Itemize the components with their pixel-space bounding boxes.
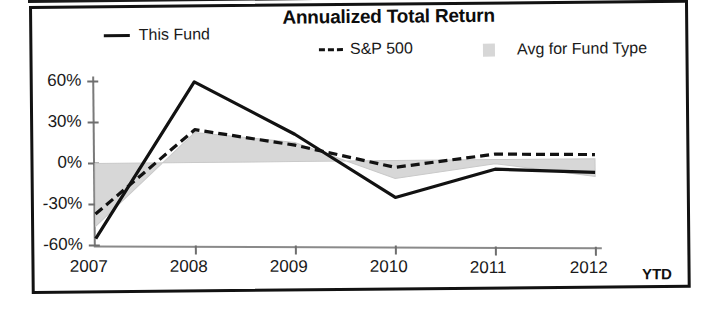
series-area-avg-for-fund-type [95, 129, 596, 227]
chart-plot-area: Annualized Total Return This Fund S&P 50… [0, 0, 702, 315]
chart-series-canvas [0, 0, 702, 315]
chart-screenshot: Annualized Total Return This Fund S&P 50… [0, 0, 702, 315]
